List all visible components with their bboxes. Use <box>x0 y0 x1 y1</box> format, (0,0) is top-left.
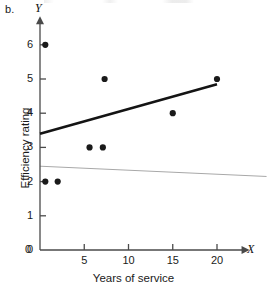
data-point <box>214 76 220 82</box>
data-point <box>100 144 106 150</box>
data-point <box>86 144 92 150</box>
x-tick-label: 5 <box>74 254 94 266</box>
y-tick-label: 5 <box>19 72 33 84</box>
data-point <box>170 110 176 116</box>
reference-line <box>40 166 267 176</box>
data-point <box>42 42 48 48</box>
axes <box>36 16 250 254</box>
x-tick-label: 0 <box>18 243 38 255</box>
x-tick-label: 15 <box>163 254 183 266</box>
x-tick-label: 20 <box>207 254 227 266</box>
fit-line <box>40 84 217 134</box>
data-point <box>102 76 108 82</box>
data-point <box>55 179 61 185</box>
plot-canvas <box>0 0 267 292</box>
y-tick-label: 4 <box>19 106 33 118</box>
y-tick-label: 2 <box>19 175 33 187</box>
data-point <box>42 179 48 185</box>
data-points <box>42 42 220 185</box>
y-tick-label: 6 <box>19 38 33 50</box>
y-tick-label: 3 <box>19 140 33 152</box>
x-tick-label: 10 <box>119 254 139 266</box>
scatter-plot-figure: b. Y X Efficiency rating Years of servic… <box>0 0 267 292</box>
y-tick-label: 1 <box>19 209 33 221</box>
